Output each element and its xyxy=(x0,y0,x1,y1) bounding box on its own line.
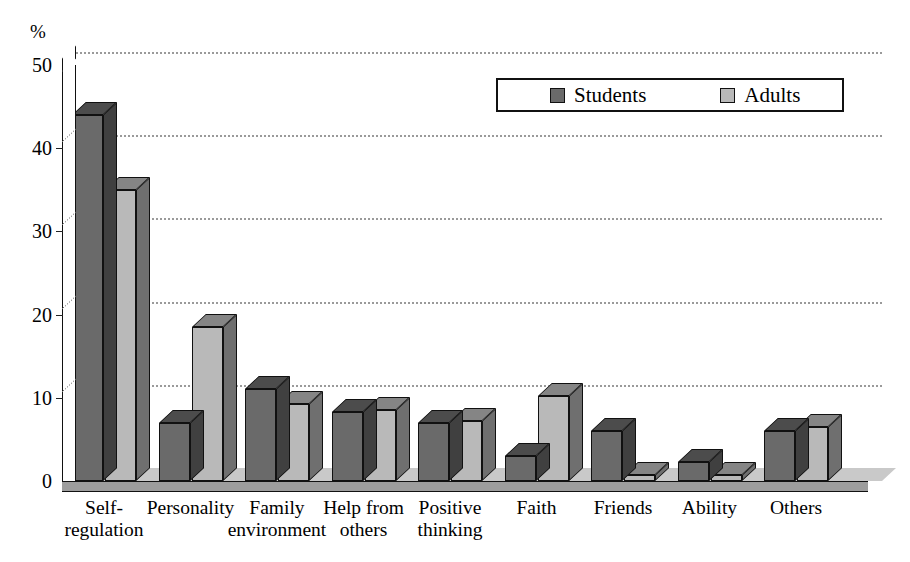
y-axis-labels: 01020304050 xyxy=(0,0,52,562)
gridline-20 xyxy=(76,302,882,304)
x-axis-label-line2: regulation xyxy=(24,519,184,541)
bar-side-face xyxy=(309,391,323,481)
legend-label-students: Students xyxy=(574,85,646,106)
legend-entry-students: Students xyxy=(550,85,646,106)
x-axis-label-line1: Others xyxy=(716,497,876,519)
bar-side-face xyxy=(363,399,377,481)
bar-students-0 xyxy=(72,102,117,481)
bar-side-face xyxy=(396,397,410,481)
gridline-30 xyxy=(76,218,882,220)
bar-front-face xyxy=(678,462,709,481)
bar-side-face xyxy=(223,314,237,481)
bar-side-face xyxy=(276,376,290,481)
bar-students-8 xyxy=(764,418,809,481)
bar-students-2 xyxy=(245,376,290,481)
bar-students-3 xyxy=(332,399,377,481)
legend-swatch-adults xyxy=(720,88,735,103)
y-tick-label-40: 40 xyxy=(12,138,52,158)
bar-side-face xyxy=(569,383,583,481)
x-axis-label-line2: thinking xyxy=(370,519,530,541)
bar-front-face xyxy=(505,456,536,481)
bar-front-face xyxy=(418,423,449,481)
bar-students-5 xyxy=(505,443,550,481)
chart-floor-front xyxy=(62,481,868,492)
bar-front-face xyxy=(764,431,795,481)
bar-front-face xyxy=(72,115,103,481)
chart-legend: StudentsAdults xyxy=(496,78,844,112)
bar-students-4 xyxy=(418,410,463,481)
y-axis-wall-face xyxy=(62,65,76,481)
bar-students-1 xyxy=(159,410,204,481)
bar-front-face xyxy=(159,423,190,481)
y-tick-label-10: 10 xyxy=(12,388,52,408)
x-axis-label-8: Others xyxy=(716,497,876,519)
y-tick-label-30: 30 xyxy=(12,221,52,241)
bar-side-face xyxy=(103,102,117,481)
gridline-50 xyxy=(76,52,882,54)
bar-students-7 xyxy=(678,449,723,481)
legend-swatch-students xyxy=(550,88,565,103)
bar-students-6 xyxy=(591,418,636,481)
bar-side-face xyxy=(136,177,150,481)
y-axis-3d-wall xyxy=(62,65,76,481)
gridline-40 xyxy=(76,135,882,137)
legend-label-adults: Adults xyxy=(744,85,800,106)
bar-front-face xyxy=(591,431,622,481)
y-tick-label-0: 0 xyxy=(12,471,52,491)
y-tick-label-50: 50 xyxy=(12,55,52,75)
legend-entry-adults: Adults xyxy=(720,85,800,106)
y-tick-label-20: 20 xyxy=(12,305,52,325)
bar-front-face xyxy=(332,412,363,481)
bar-chart: % 01020304050 Self-regulationPersonality… xyxy=(0,0,910,562)
bar-front-face xyxy=(245,389,276,481)
